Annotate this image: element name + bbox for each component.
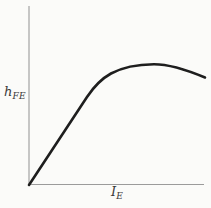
plot-area	[0, 0, 211, 208]
y-axis-label: hFE	[4, 85, 26, 101]
hfe-vs-ie-chart: hFE IE	[0, 0, 211, 208]
x-axis-label-subscript: E	[116, 191, 123, 201]
y-axis-label-subscript: FE	[12, 91, 25, 101]
x-axis-label: IE	[111, 185, 123, 201]
hfe-curve	[29, 64, 205, 185]
